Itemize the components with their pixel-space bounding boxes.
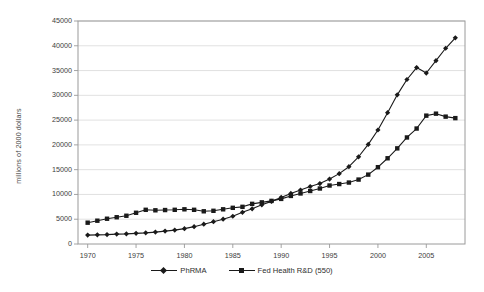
y-tick-label: 30000 xyxy=(38,90,72,99)
data-point-marker xyxy=(240,205,244,209)
legend-label: Fed Health R&D (550) xyxy=(258,266,333,275)
data-point-marker xyxy=(202,209,206,213)
data-point-marker xyxy=(134,211,138,215)
legend-square-marker-icon xyxy=(229,266,255,275)
data-point-marker xyxy=(424,113,428,117)
data-point-marker xyxy=(95,219,99,223)
data-point-marker xyxy=(231,206,235,210)
data-point-marker xyxy=(279,197,283,201)
data-point-marker xyxy=(318,186,322,190)
data-point-marker xyxy=(414,126,418,130)
data-point-marker xyxy=(327,183,331,187)
y-tick-label: 15000 xyxy=(38,165,72,174)
data-point-marker xyxy=(182,207,186,211)
data-point-marker xyxy=(250,202,254,206)
data-point-marker xyxy=(366,172,370,176)
legend-entry-1[interactable]: PhRMA xyxy=(151,266,206,275)
y-tick-label: 35000 xyxy=(38,66,72,75)
data-point-marker xyxy=(211,209,215,213)
data-point-marker xyxy=(376,165,380,169)
data-point-marker xyxy=(337,182,341,186)
x-tick-label: 1995 xyxy=(313,251,347,260)
data-point-marker xyxy=(153,208,157,212)
data-point-marker xyxy=(298,191,302,195)
y-tick-label: 25000 xyxy=(38,115,72,124)
chart-container: millions of 2000 dollars 050001000015000… xyxy=(0,0,484,292)
legend-label: PhRMA xyxy=(180,266,206,275)
data-point-marker xyxy=(395,146,399,150)
data-point-marker xyxy=(356,177,360,181)
data-point-marker xyxy=(105,217,109,221)
data-point-marker xyxy=(192,208,196,212)
chart-legend: PhRMAFed Health R&D (550) xyxy=(0,266,484,275)
y-tick-label: 20000 xyxy=(38,140,72,149)
x-tick-label: 1980 xyxy=(167,251,201,260)
x-tick-label: 1990 xyxy=(264,251,298,260)
x-tick-label: 1975 xyxy=(119,251,153,260)
data-point-marker xyxy=(453,116,457,120)
data-point-marker xyxy=(385,156,389,160)
x-tick-label: 2005 xyxy=(409,251,443,260)
y-tick-label: 10000 xyxy=(38,189,72,198)
plot-background xyxy=(78,21,465,244)
x-tick-label: 1985 xyxy=(216,251,250,260)
data-point-marker xyxy=(289,194,293,198)
y-tick-label: 0 xyxy=(38,239,72,248)
data-point-marker xyxy=(347,180,351,184)
plot-area xyxy=(0,0,484,292)
data-point-marker xyxy=(308,189,312,193)
data-point-marker xyxy=(163,208,167,212)
data-point-marker xyxy=(173,208,177,212)
data-point-marker xyxy=(405,135,409,139)
data-point-marker xyxy=(260,200,264,204)
data-point-marker xyxy=(115,215,119,219)
data-point-marker xyxy=(85,220,89,224)
y-tick-label: 45000 xyxy=(38,16,72,25)
x-tick-label: 2000 xyxy=(361,251,395,260)
data-point-marker xyxy=(269,199,273,203)
data-point-marker xyxy=(434,111,438,115)
data-point-marker xyxy=(124,214,128,218)
y-tick-label: 5000 xyxy=(38,214,72,223)
legend-entry-2[interactable]: Fed Health R&D (550) xyxy=(229,266,333,275)
legend-diamond-marker-icon xyxy=(151,266,177,275)
y-tick-label: 40000 xyxy=(38,41,72,50)
data-point-marker xyxy=(443,114,447,118)
x-tick-label: 1970 xyxy=(71,251,105,260)
data-point-marker xyxy=(144,208,148,212)
data-point-marker xyxy=(221,207,225,211)
